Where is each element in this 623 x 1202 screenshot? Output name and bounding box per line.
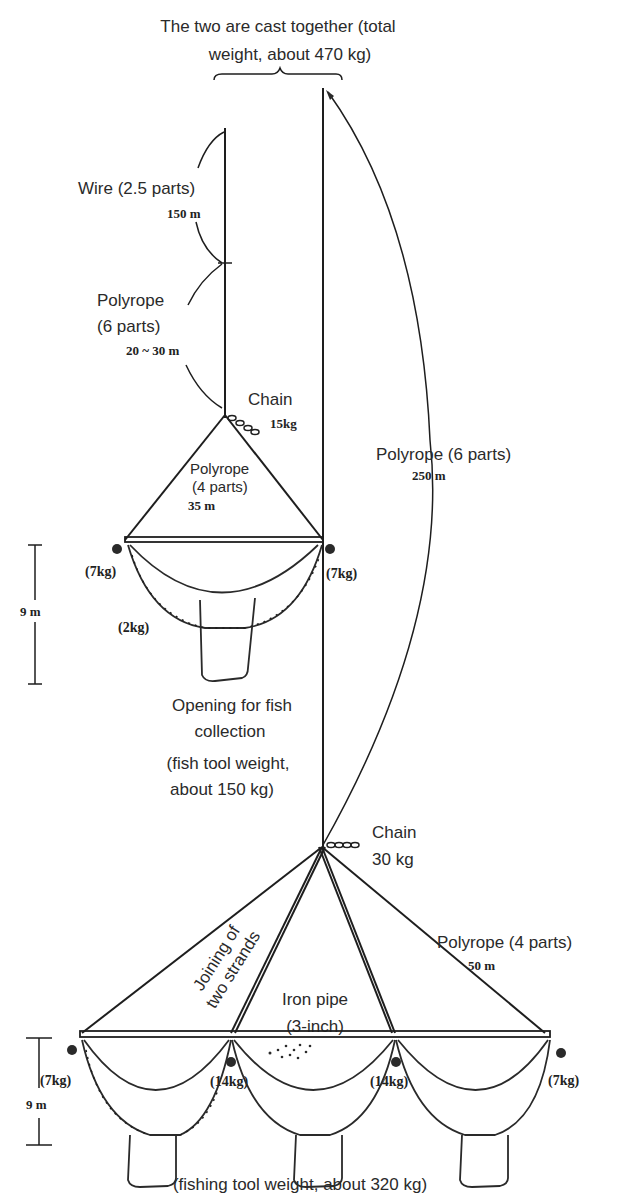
wire-arrow-bottom (196, 222, 222, 263)
lower-weight-1: (7kg) (40, 1073, 71, 1089)
lower-height-scale (26, 1038, 52, 1145)
lower-net-3 (396, 1040, 550, 1187)
middle-note-4: about 150 kg) (170, 780, 274, 799)
lower-weight-3: (14kg) (370, 1074, 408, 1090)
title-line-1: The two are cast together (total (160, 17, 395, 36)
chain-weight-lower: 30 kg (372, 850, 414, 869)
wire-length: 150 m (167, 206, 201, 221)
upper-right-weight: (7kg) (326, 566, 357, 582)
wire-arrow-top (198, 132, 224, 168)
middle-note-2: collection (195, 722, 266, 741)
polyrope-arrow-bottom (186, 365, 222, 408)
title: The two are cast together (total weight,… (160, 17, 395, 64)
upper-sinker-weight: (2kg) (118, 620, 149, 636)
bridle-label-1: Polyrope (190, 460, 249, 477)
upper-left-weight: (7kg) (85, 564, 116, 580)
lower-weight-3-icon (391, 1057, 401, 1067)
chain-label-lower: Chain (372, 823, 416, 842)
upper-net-inner (130, 545, 318, 593)
bridle-label-2: (4 parts) (192, 478, 248, 495)
upper-net-outer (128, 545, 322, 628)
chain-label-upper: Chain (248, 390, 292, 409)
lower-weight-4-icon (556, 1048, 566, 1058)
polyrope-length: 20 ~ 30 m (126, 343, 180, 358)
pipe-label-1: Iron pipe (282, 990, 348, 1009)
upper-sinker-ticks (132, 555, 320, 628)
upper-height-label: 9 m (20, 604, 41, 619)
lower-caption: (fishing tool weight, about 320 kg) (173, 1175, 427, 1194)
lower-height-label: 9 m (26, 1097, 47, 1112)
lower-bridle-label: Polyrope (4 parts) (437, 933, 572, 952)
lower-weight-4: (7kg) (548, 1073, 579, 1089)
title-line-2: weight, about 470 kg) (208, 45, 372, 64)
lower-bridle-length: 50 m (468, 958, 495, 973)
upper-right-weight-icon (325, 544, 335, 554)
main-line-label: Polyrope (6 parts) (376, 445, 511, 464)
lower-weight-1-icon (67, 1045, 77, 1055)
upper-codend (200, 598, 255, 681)
chain-weight-upper: 15kg (270, 416, 297, 431)
lower-net-1 (82, 1040, 231, 1187)
pipe-label-2: (3-inch) (286, 1017, 344, 1036)
polyrope-label-1: Polyrope (97, 291, 164, 310)
middle-note-1: Opening for fish (172, 696, 292, 715)
fish-dots (269, 1044, 312, 1060)
fishing-gear-diagram: The two are cast together (total weight,… (0, 0, 623, 1202)
bridle-length: 35 m (188, 498, 215, 513)
main-line-length: 250 m (412, 468, 446, 483)
polyrope-arrow-top (188, 264, 222, 305)
wire-label: Wire (2.5 parts) (78, 179, 195, 198)
middle-note-3: (fish tool weight, (167, 754, 290, 773)
upper-pipe (125, 537, 323, 542)
upper-left-weight-icon (112, 544, 122, 554)
polyrope-label-2: (6 parts) (97, 317, 160, 336)
lower-net-2 (232, 1040, 395, 1187)
brace (214, 68, 342, 80)
lower-chain-icon (327, 843, 359, 848)
